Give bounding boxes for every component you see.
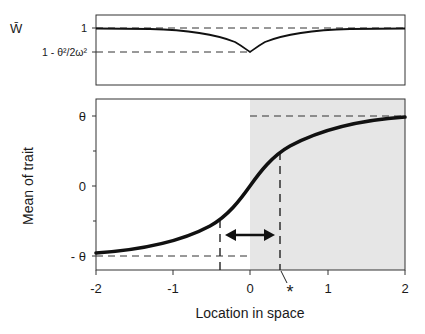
x-axis-title: Location in space (196, 305, 305, 321)
xtick-minus-1: -1 (167, 281, 179, 296)
xtick-minus-2: -2 (90, 281, 102, 296)
star-marker: * (286, 282, 293, 302)
fitness-tick-min: 1 - θ²/2ω² (42, 46, 87, 58)
cline-figure: W̄ 1 1 - θ²/2ω² * (0, 0, 425, 334)
xtick-2: 2 (401, 281, 408, 296)
fitness-panel: W̄ 1 1 - θ²/2ω² (10, 15, 405, 85)
trait-panel: * θ 0 - θ -2 -1 0 1 2 Location in space … (20, 99, 409, 321)
fitness-axis-label: W̄ (10, 21, 23, 36)
fitness-curve (96, 29, 405, 53)
xtick-0: 0 (246, 281, 253, 296)
xtick-1: 1 (324, 281, 331, 296)
fitness-tick-one: 1 (81, 22, 87, 34)
ytick-zero: 0 (79, 179, 86, 194)
y-axis-title: Mean of trait (20, 147, 36, 225)
ytick-minus-theta: - θ (71, 249, 86, 264)
shaded-region (250, 99, 405, 270)
fitness-panel-frame (96, 15, 405, 85)
ytick-theta: θ (79, 109, 86, 124)
